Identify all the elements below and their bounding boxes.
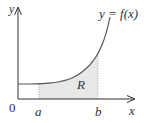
region-label: R [77, 78, 85, 91]
curve-label: y = f(x) [99, 7, 138, 20]
bound-label-a: a [35, 105, 42, 118]
y-axis-label: y [9, 3, 14, 15]
region-r [39, 53, 98, 99]
origin-label: 0 [9, 101, 16, 114]
bound-label-b: b [95, 105, 102, 118]
x-axis-label: x [129, 104, 135, 117]
